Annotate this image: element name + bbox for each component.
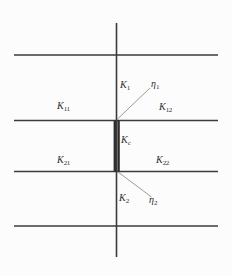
label-eta1: η1 [151, 79, 159, 91]
label-eta2-sub: 2 [154, 199, 157, 207]
label-k1-sub: 1 [127, 84, 130, 92]
label-k11-base: K [57, 100, 64, 111]
label-k21: K21 [57, 155, 70, 167]
label-k2-base: K [119, 192, 126, 203]
label-k22: K22 [156, 155, 169, 167]
leader-line-eta1 [117, 88, 150, 120]
label-k1: K1 [120, 80, 130, 92]
label-k12-sub: 12 [166, 106, 172, 114]
label-kc-sub: c [128, 139, 131, 147]
label-k11: K11 [57, 101, 70, 113]
label-kc: Kc [121, 135, 130, 147]
label-k11-sub: 11 [64, 105, 70, 113]
label-k12-base: K [159, 101, 166, 112]
label-k21-base: K [57, 154, 64, 165]
label-k12: K12 [159, 102, 172, 114]
label-k1-base: K [120, 79, 127, 90]
label-eta1-sub: 1 [156, 83, 159, 91]
diagram-canvas [0, 0, 232, 276]
label-k22-sub: 22 [163, 159, 169, 167]
schematic-figure: K1 η1 K11 K12 Kc K21 K22 K2 η2 [0, 0, 232, 276]
label-kc-base: K [121, 134, 128, 145]
label-k22-base: K [156, 154, 163, 165]
label-k2-sub: 2 [126, 197, 129, 205]
label-eta2: η2 [149, 195, 157, 207]
label-k21-sub: 21 [64, 159, 70, 167]
label-k2: K2 [119, 193, 129, 205]
